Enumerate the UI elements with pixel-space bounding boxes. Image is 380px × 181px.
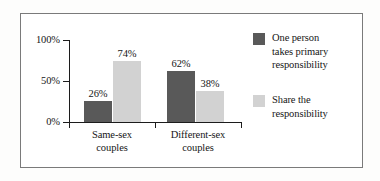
bar-same-sex-one-person [84,101,112,122]
y-tick-label-50: 50% [18,75,60,86]
y-tick-label-0: 0% [18,116,60,127]
chart-plot-area: 100% 50% 0% 26% 74% 62% 38% Same-sex cou… [0,0,380,181]
legend-swatch-share [253,95,265,107]
y-tick-label-100-wrap: 100% [18,34,60,46]
bar-same-sex-share [113,61,141,122]
category-label-different-sex: Different-sex couples [138,128,258,154]
bar-value-different-sex-share: 38% [190,78,230,89]
bar-value-same-sex-share: 74% [107,48,147,59]
y-tick-label-50-wrap: 50% [18,75,60,87]
bar-different-sex-share [196,91,224,122]
category-label-different-sex-line2: couples [138,141,258,154]
legend-label-share-line2: responsibility [272,107,368,121]
chart-screenshot: 100% 50% 0% 26% 74% 62% 38% Same-sex cou… [0,0,380,181]
legend-label-one-person-line1: One person [272,31,368,45]
y-axis-line [69,40,70,123]
legend-label-one-person-line3: responsibility [272,58,368,72]
category-label-different-sex-line1: Different-sex [138,128,258,141]
legend-label-one-person: One person takes primary responsibility [272,31,368,72]
legend-label-share-line1: Share the [272,93,368,107]
y-tick-label-100: 100% [18,34,60,45]
y-tick-label-0-wrap: 0% [18,116,60,128]
bar-value-same-sex-one-person: 26% [78,88,118,99]
legend-swatch-one-person [253,33,265,45]
y-tick-mark-50 [63,81,69,82]
legend-label-one-person-line2: takes primary [272,45,368,59]
legend-label-share: Share the responsibility [272,93,368,120]
y-tick-mark-100 [63,40,69,41]
bar-value-different-sex-one-person: 62% [161,58,201,69]
